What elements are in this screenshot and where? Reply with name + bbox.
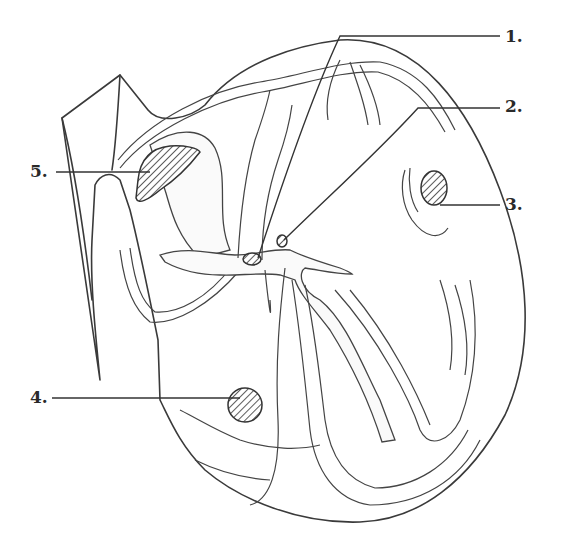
- right-ventricle-spot: [228, 388, 262, 422]
- left-ventricle-spot: [421, 171, 447, 205]
- leader-1: [258, 36, 500, 258]
- label-2: 2.: [505, 96, 523, 116]
- label-1: 1.: [505, 26, 523, 46]
- label-4: 4.: [30, 387, 48, 407]
- label-5: 5.: [30, 161, 48, 181]
- label-3: 3.: [505, 194, 523, 214]
- bundle-of-his: [277, 235, 287, 247]
- atria: [118, 62, 455, 322]
- heart-conduction-diagram: [0, 0, 562, 546]
- av-node: [243, 253, 261, 265]
- leader-2: [284, 108, 500, 240]
